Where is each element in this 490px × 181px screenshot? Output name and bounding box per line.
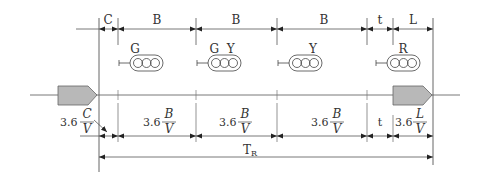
signal-timing-diagram: C B B B t L G G Y Y R bbox=[0, 0, 490, 181]
formula-b-v-1: 3.6 B V bbox=[143, 107, 176, 136]
signal-1: G bbox=[119, 42, 163, 71]
svg-text:3.6: 3.6 bbox=[219, 116, 237, 129]
top-label-b3: B bbox=[320, 13, 329, 27]
svg-text:V: V bbox=[165, 122, 175, 136]
svg-text:T: T bbox=[243, 143, 251, 157]
svg-text:B: B bbox=[240, 107, 250, 121]
svg-text:C: C bbox=[82, 107, 91, 121]
svg-text:B: B bbox=[332, 107, 342, 121]
traffic-light-icon bbox=[278, 55, 322, 71]
top-labels: C B B B t L bbox=[103, 13, 417, 27]
total-label: T R bbox=[243, 143, 258, 158]
svg-text:V: V bbox=[241, 122, 251, 136]
svg-text:3.6: 3.6 bbox=[311, 116, 329, 129]
formula-b-v-2: 3.6 B V bbox=[219, 107, 252, 136]
traffic-light-icon bbox=[119, 55, 163, 71]
signal-3-label: Y bbox=[308, 42, 318, 56]
signal-4-label: R bbox=[398, 42, 408, 56]
traffic-light-icon bbox=[197, 55, 241, 71]
vehicle-end-icon bbox=[393, 86, 432, 105]
svg-text:V: V bbox=[83, 122, 93, 136]
top-label-b1: B bbox=[153, 13, 162, 27]
top-label-t: t bbox=[378, 13, 383, 27]
formula-c-v: 3.6 C V bbox=[60, 107, 94, 136]
pointer-arrow bbox=[94, 120, 107, 132]
signal-4: R bbox=[376, 42, 420, 71]
svg-text:L: L bbox=[415, 107, 424, 121]
svg-text:3.6: 3.6 bbox=[143, 116, 161, 129]
top-label-l: L bbox=[409, 13, 417, 27]
svg-text:3.6: 3.6 bbox=[60, 116, 78, 129]
svg-text:3.6: 3.6 bbox=[395, 116, 413, 129]
traffic-light-icon bbox=[376, 55, 420, 71]
svg-text:B: B bbox=[164, 107, 174, 121]
svg-text:V: V bbox=[416, 122, 426, 136]
vehicle-start-icon bbox=[58, 86, 97, 105]
svg-text:R: R bbox=[251, 149, 258, 158]
svg-text:V: V bbox=[333, 122, 343, 136]
signal-3: Y bbox=[278, 42, 322, 71]
signal-1-label: G bbox=[130, 42, 140, 56]
formula-l-v: 3.6 L V bbox=[395, 107, 427, 136]
bottom-label-t: t bbox=[378, 116, 383, 129]
top-label-b2: B bbox=[232, 13, 241, 27]
signal-2: G Y bbox=[197, 42, 241, 71]
formula-b-v-3: 3.6 B V bbox=[311, 107, 344, 136]
signal-2-label: G Y bbox=[209, 42, 235, 56]
top-label-c: C bbox=[103, 13, 112, 27]
